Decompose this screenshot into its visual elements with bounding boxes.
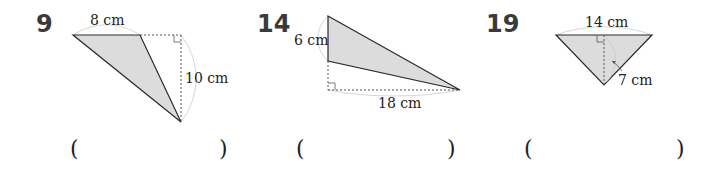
dimension-label-side: 6 cm bbox=[294, 33, 328, 47]
dimension-label-bottom: 18 cm bbox=[378, 96, 421, 110]
right-angle-mark bbox=[328, 83, 335, 90]
dimension-label-side: 10 cm bbox=[185, 71, 228, 85]
figure-14-triangle bbox=[318, 16, 460, 96]
problem-number-9: 9 bbox=[36, 12, 53, 36]
answer-blank-14[interactable] bbox=[312, 138, 442, 162]
right-angle-mark bbox=[174, 35, 181, 42]
shaded-triangle bbox=[328, 16, 460, 90]
answer-paren-open: ( bbox=[296, 138, 305, 160]
problem-number-14: 14 bbox=[257, 12, 290, 36]
dimension-label-top: 14 cm bbox=[585, 15, 628, 29]
answer-blank-19[interactable] bbox=[540, 138, 670, 162]
answer-paren-open: ( bbox=[524, 138, 533, 160]
dimension-label-height: 7 cm bbox=[618, 73, 652, 87]
answer-paren-close: ) bbox=[676, 138, 685, 160]
answer-paren-open: ( bbox=[70, 138, 79, 160]
answer-paren-close: ) bbox=[447, 138, 456, 160]
answer-paren-close: ) bbox=[219, 138, 228, 160]
dimension-label-top: 8 cm bbox=[90, 13, 124, 27]
answer-blank-9[interactable] bbox=[85, 138, 215, 162]
problem-number-19: 19 bbox=[486, 12, 519, 36]
shaded-triangle bbox=[73, 35, 181, 122]
figure-9-triangle bbox=[73, 25, 196, 122]
